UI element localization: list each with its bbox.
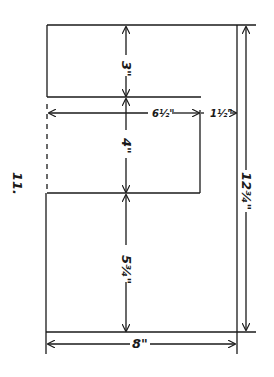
dimension-inner-width: 6½" — [49, 108, 199, 119]
dimension-bottom-height: 5¾" — [119, 195, 134, 331]
pattern-diagram: 3" 4" 5¾" 6½" 1½" 8" 12¾" 11. — [0, 0, 274, 377]
label-total-width: 8" — [132, 336, 148, 351]
dimension-total-width: 8" — [48, 336, 235, 351]
label-total-height: 12¾" — [239, 172, 254, 210]
label-middle-height: 4" — [119, 137, 134, 154]
dimension-total-height: 12¾" — [239, 27, 254, 330]
label-bottom-height: 5¾" — [119, 255, 134, 284]
dimension-top-height: 3" — [119, 27, 134, 96]
label-offset-width: 1½" — [210, 108, 233, 119]
figure-label: 11. — [10, 172, 25, 195]
label-inner-width: 6½" — [152, 108, 175, 119]
dimension-offset-width: 1½" — [201, 108, 236, 119]
label-top-height: 3" — [119, 61, 134, 77]
shape-outline — [46, 25, 256, 354]
